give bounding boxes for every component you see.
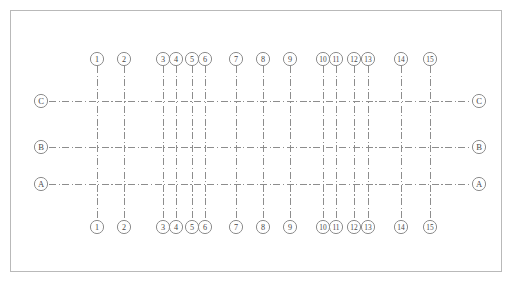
column-bubble-bottom-11[interactable]: 11: [329, 220, 342, 233]
column-bubble-top-3[interactable]: 3: [156, 52, 169, 65]
column-bubble-top-12[interactable]: 12: [347, 52, 360, 65]
row-bubble-left-c[interactable]: C: [34, 94, 47, 107]
grid-bubble-label: 10: [319, 55, 327, 64]
column-bubble-top-2[interactable]: 2: [117, 52, 130, 65]
grid-bubble-label: 5: [190, 55, 194, 64]
column-bubble-bottom-4[interactable]: 4: [169, 220, 182, 233]
column-bubble-top-11[interactable]: 11: [329, 52, 342, 65]
column-bubble-bottom-3[interactable]: 3: [156, 220, 169, 233]
grid-bubble-label: 13: [364, 55, 372, 64]
grid-bubble-label: 6: [203, 55, 207, 64]
column-bubble-top-6[interactable]: 6: [198, 52, 211, 65]
column-bubble-bottom-15[interactable]: 15: [423, 220, 436, 233]
column-bubble-top-14[interactable]: 14: [394, 52, 407, 65]
column-bubble-bottom-12[interactable]: 12: [347, 220, 360, 233]
column-bubbles-bottom-group: 123456789101112131415: [90, 220, 436, 233]
grid-bubble-label: 1: [95, 55, 99, 64]
row-bubble-right-c[interactable]: C: [472, 94, 485, 107]
grid-bubble-label: 15: [426, 55, 434, 64]
grid-bubble-label: 11: [332, 55, 339, 64]
column-bubble-top-10[interactable]: 10: [316, 52, 329, 65]
column-bubble-top-9[interactable]: 9: [283, 52, 296, 65]
column-bubble-bottom-7[interactable]: 7: [229, 220, 242, 233]
column-bubble-bottom-6[interactable]: 6: [198, 220, 211, 233]
grid-bubble-label: 1: [95, 223, 99, 232]
column-bubble-bottom-10[interactable]: 10: [316, 220, 329, 233]
grid-bubble-label: C: [38, 96, 44, 106]
grid-bubble-label: 13: [364, 223, 372, 232]
grid-bubble-label: 7: [234, 223, 238, 232]
grid-bubble-label: 3: [161, 223, 165, 232]
column-bubble-top-15[interactable]: 15: [423, 52, 436, 65]
grid-bubble-label: 14: [397, 55, 405, 64]
row-bubble-right-b[interactable]: B: [472, 140, 485, 153]
row-bubbles-left-group: CBA: [34, 94, 47, 190]
row-gridlines-group: [49, 101, 471, 184]
grid-bubble-label: 11: [332, 223, 339, 232]
column-bubble-bottom-2[interactable]: 2: [117, 220, 130, 233]
grid-bubble-label: 10: [319, 223, 327, 232]
grid-svg: CBA CBA 123456789101112131415 1234567891…: [0, 0, 513, 289]
grid-bubble-label: 5: [190, 223, 194, 232]
row-bubble-left-a[interactable]: A: [34, 177, 47, 190]
column-bubble-top-7[interactable]: 7: [229, 52, 242, 65]
grid-bubble-label: 4: [174, 55, 178, 64]
column-bubble-bottom-8[interactable]: 8: [256, 220, 269, 233]
grid-bubble-label: 6: [203, 223, 207, 232]
row-bubble-right-a[interactable]: A: [472, 177, 485, 190]
grid-bubble-label: 9: [288, 223, 292, 232]
column-bubble-bottom-14[interactable]: 14: [394, 220, 407, 233]
column-bubble-top-5[interactable]: 5: [185, 52, 198, 65]
grid-bubble-label: C: [476, 96, 482, 106]
grid-bubble-label: 8: [261, 223, 265, 232]
drawing-canvas: CBA CBA 123456789101112131415 1234567891…: [0, 0, 513, 289]
column-bubble-top-4[interactable]: 4: [169, 52, 182, 65]
grid-bubble-label: 3: [161, 55, 165, 64]
grid-bubble-label: 2: [122, 55, 126, 64]
column-bubble-bottom-5[interactable]: 5: [185, 220, 198, 233]
grid-bubble-label: A: [38, 179, 45, 189]
grid-bubble-label: 12: [350, 55, 358, 64]
column-bubble-top-1[interactable]: 1: [90, 52, 103, 65]
column-bubble-bottom-1[interactable]: 1: [90, 220, 103, 233]
grid-bubble-label: B: [38, 142, 44, 152]
grid-bubble-label: A: [476, 179, 483, 189]
grid-bubble-label: 12: [350, 223, 358, 232]
grid-bubble-label: 7: [234, 55, 238, 64]
column-bubble-bottom-13[interactable]: 13: [361, 220, 374, 233]
grid-bubble-label: 8: [261, 55, 265, 64]
column-bubble-top-13[interactable]: 13: [361, 52, 374, 65]
column-bubble-top-8[interactable]: 8: [256, 52, 269, 65]
grid-bubble-label: 2: [122, 223, 126, 232]
row-bubbles-right-group: CBA: [472, 94, 485, 190]
grid-bubble-label: B: [476, 142, 482, 152]
column-bubbles-top-group: 123456789101112131415: [90, 52, 436, 65]
column-bubble-bottom-9[interactable]: 9: [283, 220, 296, 233]
grid-bubble-label: 4: [174, 223, 178, 232]
grid-bubble-label: 9: [288, 55, 292, 64]
row-bubble-left-b[interactable]: B: [34, 140, 47, 153]
grid-bubble-label: 15: [426, 223, 434, 232]
grid-bubble-label: 14: [397, 223, 405, 232]
column-gridlines-group: [97, 66, 430, 220]
